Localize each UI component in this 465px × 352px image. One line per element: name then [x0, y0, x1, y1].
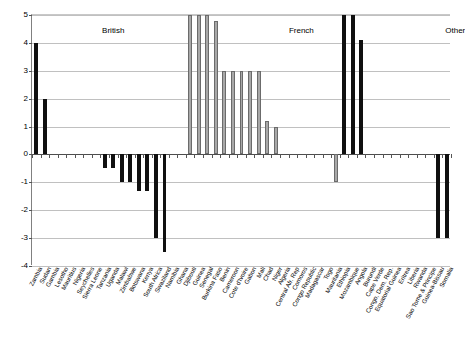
- x-tick-mark: [220, 154, 221, 158]
- x-tick-mark: [271, 154, 272, 158]
- gridline: [32, 238, 450, 239]
- x-tick-mark: [451, 154, 452, 158]
- y-tick-label: 5: [24, 11, 28, 19]
- bar: [34, 43, 38, 155]
- bar: [120, 154, 124, 182]
- x-tick-mark: [83, 154, 84, 158]
- bar: [145, 154, 149, 190]
- x-tick-mark: [32, 154, 33, 158]
- x-tick-mark: [229, 154, 230, 158]
- x-tick-mark: [314, 154, 315, 158]
- y-tick-label: -3: [21, 234, 28, 242]
- bar: [240, 71, 244, 155]
- bar: [436, 154, 440, 238]
- x-tick-mark: [135, 154, 136, 158]
- bar: [111, 154, 115, 168]
- x-tick-mark: [254, 154, 255, 158]
- x-axis-labels: ZambiaSudanGambiaLesothoMauritiusNigeria…: [31, 266, 450, 352]
- gridline: [32, 182, 450, 183]
- y-tick-mark: [29, 127, 32, 128]
- x-tick-mark: [263, 154, 264, 158]
- y-tick-label: 0: [24, 150, 28, 158]
- bar: [137, 154, 141, 190]
- bar: [222, 71, 226, 155]
- bar: [351, 15, 355, 154]
- x-tick-mark: [49, 154, 50, 158]
- bar: [188, 15, 192, 154]
- x-tick-mark: [143, 154, 144, 158]
- gridline: [32, 43, 450, 44]
- y-tick-label: -1: [21, 178, 28, 186]
- x-tick-mark: [194, 154, 195, 158]
- plot-area: 543210-1-2-3-4 BritishFrenchOther: [31, 14, 450, 265]
- y-tick-mark: [29, 154, 32, 155]
- bar: [231, 71, 235, 155]
- x-tick-mark: [66, 154, 67, 158]
- x-tick-mark: [365, 154, 366, 158]
- x-tick-mark: [100, 154, 101, 158]
- y-tick-label: 4: [24, 39, 28, 47]
- x-tick-mark: [203, 154, 204, 158]
- x-tick-mark: [92, 154, 93, 158]
- x-tick-mark: [340, 154, 341, 158]
- bar: [248, 71, 252, 155]
- y-tick-mark: [29, 71, 32, 72]
- x-tick-mark: [442, 154, 443, 158]
- x-tick-mark: [425, 154, 426, 158]
- y-tick-mark: [29, 15, 32, 16]
- x-tick-mark: [383, 154, 384, 158]
- x-tick-mark: [374, 154, 375, 158]
- x-tick-mark: [434, 154, 435, 158]
- x-tick-mark: [152, 154, 153, 158]
- bar: [265, 121, 269, 154]
- y-tick-label: 3: [24, 67, 28, 75]
- x-tick-mark: [169, 154, 170, 158]
- bar: [257, 71, 261, 155]
- bar: [154, 154, 158, 238]
- x-tick-mark: [118, 154, 119, 158]
- y-tick-label: 1: [24, 123, 28, 131]
- x-tick-mark: [289, 154, 290, 158]
- y-tick-mark: [29, 99, 32, 100]
- x-tick-mark: [400, 154, 401, 158]
- gridline: [32, 15, 450, 16]
- x-tick-mark: [417, 154, 418, 158]
- y-tick-label: -2: [21, 206, 28, 214]
- x-tick-mark: [348, 154, 349, 158]
- bar: [445, 154, 449, 238]
- y-tick-mark: [29, 43, 32, 44]
- group-title-other: Other: [445, 26, 465, 35]
- bar: [214, 21, 218, 155]
- x-tick-mark: [306, 154, 307, 158]
- bar: [163, 154, 167, 252]
- y-tick-mark: [29, 182, 32, 183]
- bar: [274, 127, 278, 155]
- x-tick-mark: [109, 154, 110, 158]
- x-tick-mark: [41, 154, 42, 158]
- x-tick-mark: [323, 154, 324, 158]
- y-tick-label: 2: [24, 95, 28, 103]
- x-tick-mark: [212, 154, 213, 158]
- x-tick-mark: [331, 154, 332, 158]
- zero-line: [32, 154, 450, 155]
- group-title-british: British: [102, 26, 124, 35]
- bar: [342, 15, 346, 154]
- gridline: [32, 210, 450, 211]
- x-tick-mark: [58, 154, 59, 158]
- bar: [334, 154, 338, 182]
- x-tick-mark: [297, 154, 298, 158]
- x-tick-mark: [391, 154, 392, 158]
- x-tick-mark: [126, 154, 127, 158]
- bar: [128, 154, 132, 182]
- y-tick-mark: [29, 238, 32, 239]
- group-title-french: French: [289, 26, 314, 35]
- x-tick-mark: [280, 154, 281, 158]
- x-tick-mark: [408, 154, 409, 158]
- bar: [103, 154, 107, 168]
- x-tick-mark: [160, 154, 161, 158]
- bar: [359, 40, 363, 154]
- x-tick-mark: [177, 154, 178, 158]
- x-tick-mark: [246, 154, 247, 158]
- bar: [197, 15, 201, 154]
